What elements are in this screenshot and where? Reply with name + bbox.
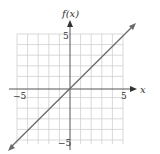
y-axis-arrow-icon xyxy=(67,20,73,27)
x-tick-5: 5 xyxy=(121,91,127,101)
x-tick-neg5: −5 xyxy=(13,91,27,101)
y-axis-label: f(x) xyxy=(61,8,79,19)
x-axis-arrow-icon xyxy=(130,86,137,92)
y-tick-neg5: −5 xyxy=(58,138,72,148)
x-axis-label: x xyxy=(140,84,146,95)
y-tick-5: 5 xyxy=(63,31,69,41)
line-arrow-bottom-icon xyxy=(8,144,15,151)
graph: x f(x) −5 5 5 −5 xyxy=(0,0,160,154)
